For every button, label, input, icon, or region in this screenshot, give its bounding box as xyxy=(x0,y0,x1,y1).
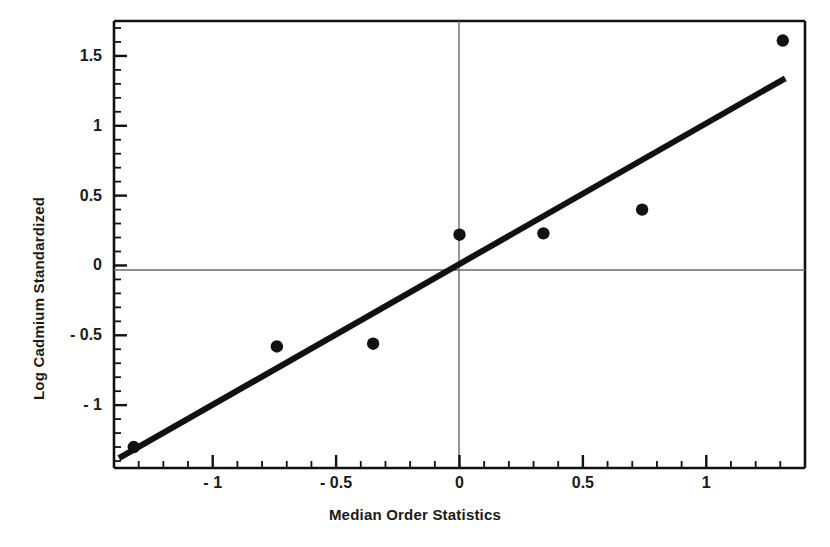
x-tick-label: - 0.5 xyxy=(320,474,352,492)
x-tick-label: 0.5 xyxy=(572,474,594,492)
x-tick-label: 1 xyxy=(702,474,711,492)
data-point-marker xyxy=(271,340,283,352)
data-point-marker xyxy=(636,203,648,215)
y-tick-label: 0.5 xyxy=(80,187,102,205)
data-point-marker xyxy=(537,227,549,239)
fit-line-segment xyxy=(119,78,785,458)
x-tick-label: - 1 xyxy=(203,474,222,492)
plot-area xyxy=(0,0,830,547)
chart-container: - 1- 0.500.51 - 1- 0.500.511.5 Median Or… xyxy=(0,0,830,547)
y-tick-label: - 0.5 xyxy=(70,326,102,344)
x-axis-title: Median Order Statistics xyxy=(0,506,830,523)
data-point-marker xyxy=(128,441,140,453)
data-points xyxy=(128,34,789,453)
data-point-marker xyxy=(367,337,379,349)
y-tick-label: - 1 xyxy=(83,396,102,414)
y-tick-label: 1.5 xyxy=(80,47,102,65)
data-point-marker xyxy=(777,34,789,46)
y-tick-label: 0 xyxy=(93,256,102,274)
x-tick-label: 0 xyxy=(455,474,464,492)
fit-line xyxy=(119,78,785,458)
y-axis-ticks xyxy=(114,28,127,461)
x-axis-ticks xyxy=(139,455,805,468)
y-tick-label: 1 xyxy=(93,117,102,135)
y-axis-title: Log Cadmium Standardized xyxy=(30,197,47,400)
data-point-marker xyxy=(453,229,465,241)
